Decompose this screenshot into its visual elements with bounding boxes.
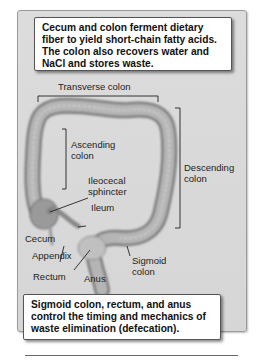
bottom-callout-line: control the timing and mechanics of xyxy=(31,311,214,323)
label-line: colon xyxy=(132,266,166,277)
bottom-callout-line: Sigmoid colon, rectum, and anus xyxy=(31,299,214,311)
label-ileum: Ileum xyxy=(91,202,114,213)
bottom-callout: Sigmoid colon, rectum, and anus control … xyxy=(23,294,221,340)
label-ileocecal-sphincter: Ileocecal sphincter xyxy=(88,175,127,197)
bottom-callout-line: waste elimination (defecation). xyxy=(31,323,214,335)
ascending-bracket xyxy=(62,129,66,189)
label-anus: Anus xyxy=(84,273,106,284)
label-transverse-colon: Transverse colon xyxy=(58,81,131,92)
label-line: Ascending xyxy=(71,139,115,150)
label-sigmoid-colon: Sigmoid colon xyxy=(132,255,166,277)
label-line: Sigmoid xyxy=(132,255,166,266)
label-line: colon xyxy=(71,150,115,161)
bottom-divider xyxy=(25,355,238,356)
label-ascending-colon: Ascending colon xyxy=(71,139,115,161)
label-cecum: Cecum xyxy=(25,233,55,244)
sigmoid-leader xyxy=(127,246,130,256)
label-appendix: Appendix xyxy=(32,250,72,261)
label-rectum: Rectum xyxy=(33,271,66,282)
label-descending-colon: Descending colon xyxy=(184,162,234,184)
label-line: sphincter xyxy=(88,186,127,197)
label-line: colon xyxy=(184,173,234,184)
label-line: Ileocecal xyxy=(88,175,127,186)
label-line: Descending xyxy=(184,162,234,173)
